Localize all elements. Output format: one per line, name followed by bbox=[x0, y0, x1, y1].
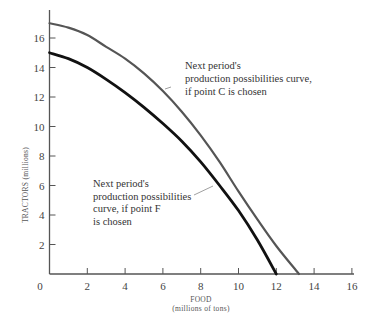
x-tick-label: 6 bbox=[160, 280, 166, 292]
y-axis-title: TRACTORS (millions) bbox=[21, 147, 30, 223]
x-tick-label: 14 bbox=[309, 280, 321, 292]
x-ticks: 0246810121416 bbox=[37, 268, 358, 292]
y-tick-label: 10 bbox=[34, 121, 46, 133]
y-tick-label: 4 bbox=[39, 209, 45, 221]
y-tick-label: 16 bbox=[34, 32, 46, 44]
y-tick-label: 8 bbox=[39, 150, 45, 162]
x-axis-title: FOOD bbox=[190, 295, 212, 304]
x-tick-label: 10 bbox=[233, 280, 245, 292]
x-tick-label: 0 bbox=[37, 280, 43, 292]
x-tick-label: 16 bbox=[346, 280, 358, 292]
curves bbox=[50, 23, 299, 274]
y-tick-label: 12 bbox=[34, 91, 45, 103]
leader-line-c bbox=[165, 87, 171, 89]
y-tick-label: 6 bbox=[39, 180, 45, 192]
axes bbox=[50, 10, 355, 274]
leader-line-f bbox=[194, 186, 213, 195]
x-tick-label: 8 bbox=[198, 280, 204, 292]
y-ticks: 246810121416 bbox=[34, 32, 56, 251]
y-tick-label: 2 bbox=[39, 239, 45, 251]
y-tick-label: 14 bbox=[34, 62, 46, 74]
production-possibilities-chart: 0246810121416 246810121416 Next period's… bbox=[0, 0, 375, 329]
annotation-f: Next period's production possibilities c… bbox=[93, 178, 194, 227]
x-tick-label: 4 bbox=[122, 280, 128, 292]
annotation-c: Next period's production possibilities c… bbox=[185, 60, 314, 97]
x-axis-subtitle: (millions of tons) bbox=[172, 304, 230, 313]
x-tick-label: 2 bbox=[85, 280, 91, 292]
curve-point-c bbox=[50, 23, 299, 274]
x-tick-label: 12 bbox=[271, 280, 282, 292]
